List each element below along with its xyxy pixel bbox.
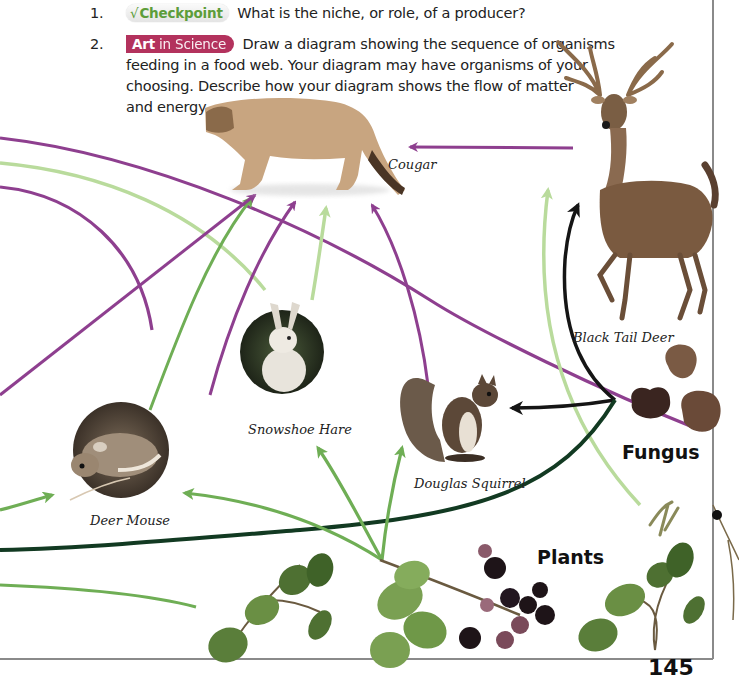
label-douglas-squirrel: Douglas Squirrel (414, 476, 526, 491)
douglas-squirrel-illustration (400, 374, 498, 462)
page-number: 145 (648, 655, 694, 679)
arrow-purple-inner (0, 187, 152, 330)
arrow-hare-to-cougar-lg (312, 208, 326, 300)
plants-illustration (203, 502, 739, 668)
cougar-illustration (205, 98, 405, 196)
deer-mouse-illustration (70, 402, 169, 500)
label-deer-mouse: Deer Mouse (90, 513, 170, 528)
arrow-plants-to-squirrel (382, 448, 402, 560)
arrow-left-to-cougar (0, 195, 255, 395)
arrow-left-to-plants (0, 585, 196, 607)
label-black-tail-deer: Black Tail Deer (573, 330, 674, 345)
arrow-fungus-to-squirrel (512, 400, 615, 408)
arrow-plants-to-hare (318, 448, 382, 560)
label-snowshoe-hare: Snowshoe Hare (248, 422, 352, 437)
label-fungus: Fungus (622, 441, 700, 463)
arrow-deer-to-cougar (410, 147, 573, 148)
arrow-left-to-mouse (0, 495, 52, 510)
label-cougar: Cougar (388, 157, 436, 172)
snowshoe-hare-illustration (240, 302, 324, 394)
label-plants: Plants (537, 546, 604, 568)
black-tail-deer-illustration (558, 42, 715, 318)
